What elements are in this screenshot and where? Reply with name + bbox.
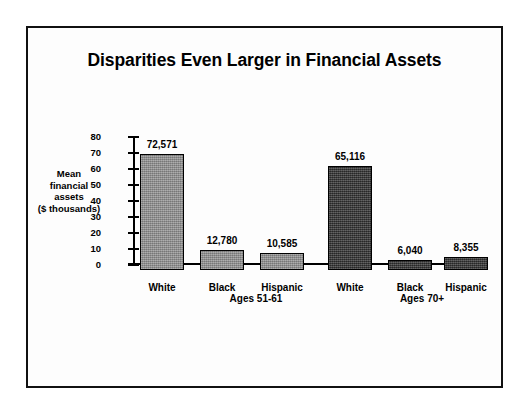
category-label: White: [336, 282, 363, 293]
plot-area: 01020304050607080 72,571White12,780Black…: [104, 130, 484, 270]
group-label: Ages 70+: [400, 293, 444, 304]
chart-title: Disparities Even Larger in Financial Ass…: [28, 50, 501, 71]
group-label: Ages 51-61: [230, 293, 283, 304]
bar[interactable]: [388, 260, 432, 270]
bar-value-label: 72,571: [147, 140, 178, 150]
bar[interactable]: [444, 257, 488, 270]
bar-group-item: 65,116White: [328, 142, 372, 270]
y-tick-label: 50: [75, 180, 101, 190]
bar[interactable]: [200, 250, 244, 270]
bar-value-label: 12,780: [207, 236, 238, 246]
category-label: Hispanic: [261, 282, 303, 293]
bar-value-label: 10,585: [267, 239, 298, 249]
bar-group-item: 6,040Black: [388, 142, 432, 270]
y-tick-label: 60: [75, 164, 101, 174]
category-label: White: [148, 282, 175, 293]
bar[interactable]: [140, 154, 184, 270]
y-tick-label: 70: [75, 148, 101, 158]
y-tick-mark: [128, 232, 139, 234]
category-label: Black: [397, 282, 424, 293]
bar[interactable]: [260, 253, 304, 270]
y-tick-mark: [128, 248, 139, 250]
y-tick-label: 40: [75, 196, 101, 206]
y-tick-label: 0: [75, 260, 101, 270]
category-label: Black: [209, 282, 236, 293]
bar[interactable]: [328, 166, 372, 270]
y-tick-mark: [128, 168, 139, 170]
y-tick-label: 10: [75, 244, 101, 254]
bar-group-item: 10,585Hispanic: [260, 142, 304, 270]
y-tick-mark: [128, 184, 139, 186]
bar-group-item: 12,780Black: [200, 142, 244, 270]
y-tick-mark: [128, 264, 139, 266]
y-tick-label: 20: [75, 228, 101, 238]
y-axis-title: Mean financial assets ($ thousands): [36, 168, 102, 214]
bar-value-label: 65,116: [335, 152, 365, 162]
y-tick-label: 80: [75, 132, 101, 142]
bar-group-item: 8,355Hispanic: [444, 142, 488, 270]
y-tick-mark: [128, 152, 139, 154]
y-tick-mark: [128, 200, 139, 202]
y-tick-label: 30: [75, 212, 101, 222]
category-label: Hispanic: [445, 282, 487, 293]
bar-value-label: 8,355: [453, 243, 478, 253]
bar-value-label: 6,040: [397, 246, 422, 256]
bar-group-item: 72,571White: [140, 142, 184, 270]
y-tick-mark: [128, 136, 139, 138]
y-tick-mark: [128, 216, 139, 218]
